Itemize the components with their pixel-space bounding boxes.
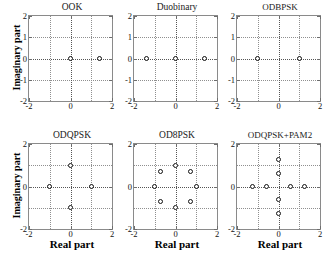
x-tick-label: 2 [318, 230, 322, 238]
y-tick-label: -1 [20, 76, 27, 84]
y-tick-mark [134, 187, 137, 188]
x-tick-mark [29, 16, 30, 19]
constellation-point [264, 184, 269, 189]
y-tick-mark [134, 37, 137, 38]
x-tick-mark [217, 98, 218, 101]
x-tick-label: 0 [276, 102, 280, 110]
constellation-point [276, 211, 281, 216]
x-axis-label: Real part [226, 238, 331, 250]
x-axis-label: Real part [18, 238, 126, 250]
x-tick-mark [112, 144, 113, 147]
y-tick-label: 2 [128, 12, 132, 20]
constellation-point [188, 169, 193, 174]
gridline-vertical [91, 16, 92, 101]
y-tick-mark [109, 187, 112, 188]
constellation-point [173, 205, 178, 210]
constellation-point [302, 184, 307, 189]
x-tick-mark [237, 16, 238, 19]
constellation-point [276, 157, 281, 162]
y-tick-mark [237, 37, 240, 38]
x-tick-label: 0 [276, 230, 280, 238]
gridline-vertical [299, 144, 300, 229]
constellation-point [173, 56, 178, 61]
panel-row-bottom: Imaginary part ODQPSK 20-2-202 Real part… [0, 128, 331, 256]
x-tick-label: -2 [130, 230, 137, 238]
gridline-horizontal [237, 165, 320, 166]
y-tick-label: 1 [231, 33, 235, 41]
constellation-diagram-figure: Imaginary part OOK 210-1-2-202 Duobinary… [0, 0, 331, 256]
y-tick-mark [317, 59, 320, 60]
constellation-point [158, 199, 163, 204]
x-tick-label: -2 [233, 102, 240, 110]
grid-lines [237, 144, 320, 229]
grid-lines [29, 16, 112, 101]
x-tick-mark [320, 98, 321, 101]
x-tick-mark [134, 98, 135, 101]
y-tick-mark [237, 80, 240, 81]
x-tick-mark [237, 144, 238, 147]
y-tick-label: 2 [23, 12, 27, 20]
y-tick-label: 1 [128, 33, 132, 41]
x-tick-mark [279, 98, 280, 101]
panel-odqpsk: ODQPSK 20-2-202 Real part [18, 128, 126, 256]
y-tick-label: -1 [228, 76, 235, 84]
plot-axes: 20-2-202 [236, 143, 321, 230]
plot-axes: 20-2-202 [133, 143, 218, 230]
x-tick-label: 2 [215, 102, 219, 110]
gridline-vertical [71, 144, 72, 229]
plot-axes: 210-1-2-202 [133, 15, 218, 102]
y-tick-mark [134, 80, 137, 81]
y-tick-label: 0 [231, 55, 235, 63]
x-tick-label: 2 [318, 102, 322, 110]
y-tick-label: 2 [231, 12, 235, 20]
x-tick-mark [29, 144, 30, 147]
plot-axes: 20-2-202 [28, 143, 113, 230]
panel-ook: OOK 210-1-2-202 [18, 0, 126, 128]
panel-title: Duobinary [123, 2, 231, 12]
y-tick-label: 2 [23, 140, 27, 148]
constellation-point [47, 184, 52, 189]
x-tick-label: -2 [233, 230, 240, 238]
x-tick-mark [279, 16, 280, 19]
x-tick-mark [176, 98, 177, 101]
x-tick-mark [176, 16, 177, 19]
y-tick-mark [237, 59, 240, 60]
x-tick-mark [320, 144, 321, 147]
x-tick-mark [112, 98, 113, 101]
y-tick-mark [214, 59, 217, 60]
y-tick-mark [214, 80, 217, 81]
x-tick-mark [217, 16, 218, 19]
constellation-point [255, 56, 260, 61]
x-tick-label: 2 [110, 230, 114, 238]
y-tick-mark [29, 37, 32, 38]
constellation-point [194, 184, 199, 189]
grid-lines [29, 144, 112, 229]
panel-title: ODQPSK+PAM2 [226, 130, 331, 140]
panel-od8psk: OD8PSK 20-2-202 Real part [123, 128, 231, 256]
y-tick-mark [109, 37, 112, 38]
x-tick-mark [71, 144, 72, 147]
y-tick-mark [29, 80, 32, 81]
x-tick-label: -2 [25, 230, 32, 238]
x-tick-mark [279, 226, 280, 229]
y-tick-mark [214, 187, 217, 188]
constellation-point [144, 56, 149, 61]
y-tick-mark [214, 37, 217, 38]
gridline-horizontal [237, 37, 320, 38]
constellation-point [68, 205, 73, 210]
constellation-point [89, 184, 94, 189]
x-tick-mark [29, 98, 30, 101]
gridline-vertical [279, 16, 280, 101]
x-tick-mark [176, 226, 177, 229]
y-tick-label: -1 [125, 76, 132, 84]
x-tick-mark [279, 144, 280, 147]
x-tick-mark [320, 16, 321, 19]
x-tick-mark [134, 144, 135, 147]
grid-lines [134, 16, 217, 101]
panel-title: OD8PSK [123, 130, 231, 140]
constellation-point [158, 169, 163, 174]
constellation-point [288, 184, 293, 189]
gridline-horizontal [134, 37, 217, 38]
y-tick-label: 0 [128, 55, 132, 63]
y-tick-mark [134, 59, 137, 60]
